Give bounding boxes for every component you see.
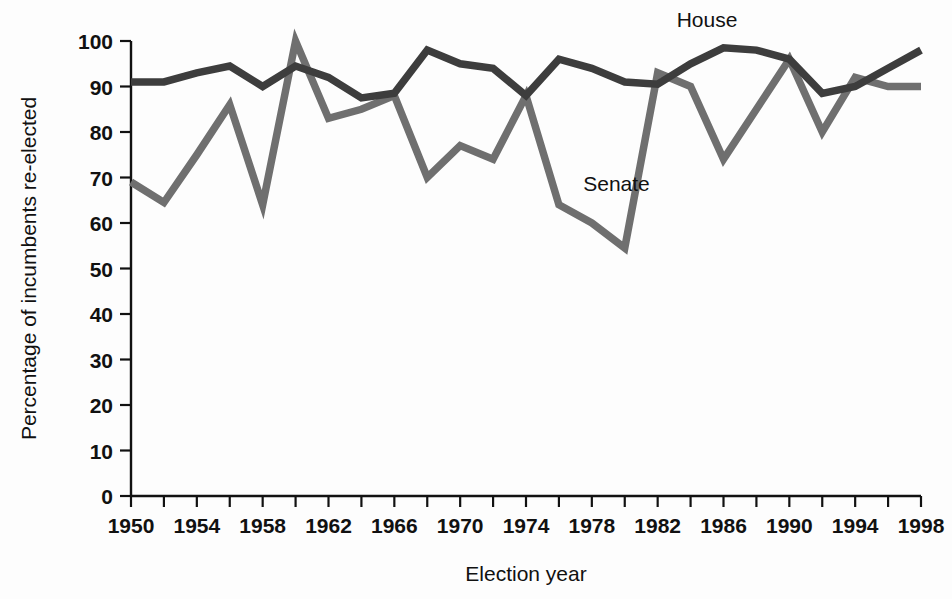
series-label-senate: Senate: [583, 172, 650, 195]
x-tick-label: 1970: [437, 514, 484, 537]
data-series-group: [131, 41, 921, 248]
x-tick-label: 1954: [173, 514, 220, 537]
x-tick-label: 1998: [898, 514, 945, 537]
y-tick-label: 0: [101, 485, 113, 508]
chart-figure: 0102030405060708090100 19501954195819621…: [0, 0, 952, 599]
x-tick-label: 1950: [108, 514, 155, 537]
y-tick-label: 90: [90, 76, 113, 99]
y-tick-label: 100: [78, 30, 113, 53]
x-tick-label: 1974: [503, 514, 550, 537]
x-axis-ticks: 1950195419581962196619701974197819821986…: [108, 496, 945, 537]
y-axis-title: Percentage of incumbents re-elected: [17, 97, 40, 440]
y-tick-label: 30: [90, 349, 113, 372]
x-tick-label: 1962: [305, 514, 352, 537]
x-tick-label: 1978: [568, 514, 615, 537]
y-axis-ticks: 0102030405060708090100: [78, 30, 131, 508]
y-tick-label: 70: [90, 167, 113, 190]
x-tick-label: 1966: [371, 514, 418, 537]
x-tick-label: 1982: [634, 514, 681, 537]
y-tick-label: 40: [90, 303, 113, 326]
y-tick-label: 60: [90, 212, 113, 235]
line-chart: 0102030405060708090100 19501954195819621…: [0, 0, 952, 599]
series-labels-group: HouseSenate: [583, 8, 737, 195]
series-label-house: House: [677, 8, 738, 31]
x-tick-label: 1986: [700, 514, 747, 537]
y-tick-label: 80: [90, 121, 113, 144]
y-tick-label: 10: [90, 440, 113, 463]
x-axis-title: Election year: [465, 562, 586, 585]
y-tick-label: 50: [90, 258, 113, 281]
x-tick-label: 1990: [766, 514, 813, 537]
y-tick-label: 20: [90, 394, 113, 417]
x-tick-label: 1958: [239, 514, 286, 537]
x-tick-label: 1994: [832, 514, 879, 537]
